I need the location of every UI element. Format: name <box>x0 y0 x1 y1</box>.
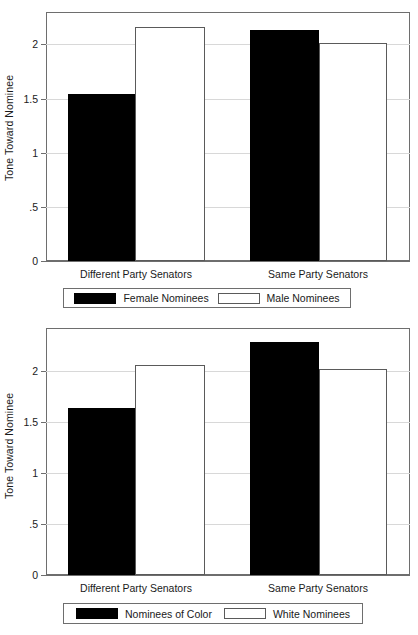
legend-label: Female Nominees <box>123 292 208 304</box>
bar <box>319 43 387 261</box>
bar <box>250 342 319 575</box>
legend-swatch-hollow-icon <box>218 293 260 304</box>
y-tick-mark <box>41 207 46 208</box>
y-tick-mark <box>41 99 46 100</box>
y-axis-title-bottom: Tone Toward Nominee <box>0 318 18 573</box>
y-tick-label: 0 <box>8 570 38 581</box>
chart-panel-top: Tone Toward Nominee 0.511.52Different Pa… <box>0 0 418 317</box>
legend-entry: Female Nominees <box>74 292 208 304</box>
bar <box>250 30 319 261</box>
bar <box>319 369 387 575</box>
legend-swatch-filled-icon <box>76 608 118 619</box>
x-axis-category-label: Different Party Senators <box>80 582 192 594</box>
y-tick-label: 1 <box>8 147 38 158</box>
y-tick-mark <box>41 473 46 474</box>
y-tick-mark <box>41 371 46 372</box>
legend-top: Female Nominees Male Nominees <box>63 288 351 308</box>
y-tick-label: .5 <box>8 519 38 530</box>
x-axis-category-label: Same Party Senators <box>268 268 368 280</box>
y-tick-label: 0 <box>8 256 38 267</box>
bar <box>135 365 205 575</box>
x-axis-line <box>41 575 410 576</box>
y-tick-label: .5 <box>8 202 38 213</box>
bar <box>68 408 135 575</box>
x-axis-line <box>41 261 410 262</box>
legend-swatch-filled-icon <box>74 293 116 304</box>
legend-bottom: Nominees of Color White Nominees <box>63 603 363 624</box>
y-tick-mark <box>41 153 46 154</box>
legend-entry: Nominees of Color <box>76 608 212 620</box>
chart-panel-bottom: Tone Toward Nominee 0.511.52Different Pa… <box>0 318 418 635</box>
y-tick-label: 1 <box>8 468 38 479</box>
x-axis-category-label: Different Party Senators <box>80 268 192 280</box>
legend-swatch-hollow-icon <box>224 608 266 619</box>
x-axis-category-label: Same Party Senators <box>268 582 368 594</box>
legend-label: Nominees of Color <box>125 608 212 620</box>
legend-label: White Nominees <box>273 608 350 620</box>
y-tick-label: 2 <box>8 39 38 50</box>
bar <box>68 94 135 261</box>
legend-entry: Male Nominees <box>218 292 340 304</box>
y-tick-mark <box>41 44 46 45</box>
y-tick-label: 1.5 <box>8 93 38 104</box>
y-tick-mark <box>41 422 46 423</box>
bar <box>135 27 205 261</box>
legend-label: Male Nominees <box>267 292 340 304</box>
y-tick-label: 2 <box>8 366 38 377</box>
y-tick-label: 1.5 <box>8 417 38 428</box>
legend-entry: White Nominees <box>224 608 350 620</box>
y-tick-mark <box>41 524 46 525</box>
